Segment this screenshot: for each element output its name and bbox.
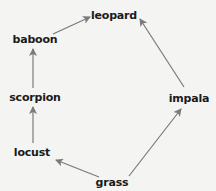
node-scorpion: scorpion: [9, 92, 60, 103]
node-grass: grass: [96, 177, 129, 188]
arrow-baboon-to-leopard: [53, 17, 90, 34]
arrow-grass-to-impala: [129, 109, 181, 176]
arrow-grass-to-locust: [56, 160, 99, 177]
node-baboon: baboon: [13, 34, 58, 45]
arrow-impala-to-leopard: [140, 19, 184, 87]
node-locust: locust: [14, 147, 50, 158]
node-leopard: leopard: [91, 10, 137, 21]
node-impala: impala: [169, 93, 210, 104]
